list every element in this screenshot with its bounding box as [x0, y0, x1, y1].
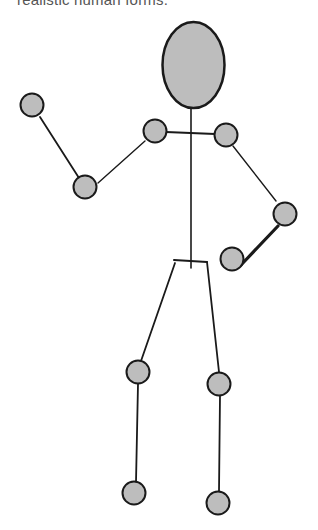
right-hand-joint: [221, 248, 244, 271]
right-knee-joint: [208, 373, 231, 396]
left-thigh: [141, 263, 175, 361]
shoulder-bar: [166, 132, 215, 134]
left-knee-joint: [127, 361, 150, 384]
left-shoulder-joint: [144, 120, 167, 143]
left-forearm: [40, 117, 79, 178]
right-foot-joint: [207, 492, 230, 515]
right-shoulder-joint: [215, 124, 238, 147]
right-shin: [219, 396, 220, 491]
right-upper-arm: [233, 146, 276, 201]
right-thigh: [207, 262, 219, 372]
hip-bar: [174, 260, 207, 262]
left-shin: [136, 384, 138, 482]
stick-figure-canvas: realistic human forms.: [0, 0, 318, 530]
left-elbow-joint: [74, 176, 97, 199]
left-upper-arm: [98, 141, 145, 183]
head: [163, 22, 225, 108]
left-hand-joint: [21, 94, 44, 117]
left-foot-joint: [123, 482, 146, 505]
stick-figure: [0, 0, 318, 530]
right-elbow-joint: [274, 203, 297, 226]
right-forearm: [241, 226, 278, 265]
